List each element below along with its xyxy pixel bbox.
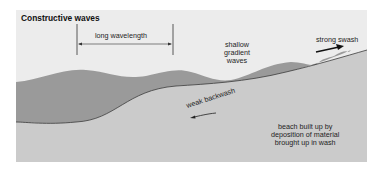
label-strong-swash: strong swash — [316, 36, 358, 44]
diagram-panel: Constructive waves long wavelength shall… — [16, 10, 367, 162]
wavelength-arrowhead-right — [168, 43, 172, 46]
label-shallow-gradient-waves: shallow gradient waves — [224, 41, 250, 66]
swash-arrowhead — [336, 44, 344, 50]
label-beach-built-up: beach built up by deposition of material… — [271, 123, 339, 148]
label-long-wavelength: long wavelength — [95, 32, 147, 40]
wavelength-arrowhead-left — [78, 43, 82, 46]
swash-arrow-line — [316, 47, 339, 52]
diagram-title: Constructive waves — [21, 13, 100, 23]
